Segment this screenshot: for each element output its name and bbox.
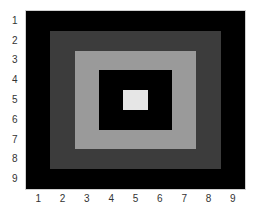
heatmap-cell: 0.25 xyxy=(50,31,74,51)
y-tick-label: 8 xyxy=(12,154,18,164)
heatmap-cell: 0.25 xyxy=(50,110,74,130)
heatmap-cell: 0 xyxy=(172,169,196,189)
y-tick-label: 5 xyxy=(12,95,18,105)
heatmap-cell: 0 xyxy=(99,70,123,90)
heatmap-cell: 0.6 xyxy=(75,51,99,71)
y-tick-label: 3 xyxy=(12,55,18,65)
x-tick-label: 4 xyxy=(108,194,114,204)
heatmap-cell: 0.6 xyxy=(172,70,196,90)
heatmap-cell: 0.25 xyxy=(123,149,147,169)
heatmap-cell: 0.6 xyxy=(172,130,196,150)
heatmap-cell: 0.6 xyxy=(75,130,99,150)
heatmap-cell: 0 xyxy=(26,11,50,31)
y-tick-label: 2 xyxy=(12,36,18,46)
heatmap-cell: 0.25 xyxy=(99,149,123,169)
heatmap-cell: 0 xyxy=(99,110,123,130)
heatmap-cell: 0 xyxy=(26,70,50,90)
heatmap-cell: 0.6 xyxy=(148,130,172,150)
heatmap-cell: 0.25 xyxy=(196,31,220,51)
heatmap-cell: 0 xyxy=(26,169,50,189)
heatmap-cell: 0 xyxy=(75,11,99,31)
heatmap-cell: 0.25 xyxy=(196,51,220,71)
y-tick-label: 6 xyxy=(12,115,18,125)
heatmap-cell: 0.6 xyxy=(123,130,147,150)
heatmap-plot-area: 00000000000.250.250.250.250.250.250.2500… xyxy=(26,11,245,189)
heatmap-cell: 0.25 xyxy=(50,90,74,110)
heatmap-cell: 0.25 xyxy=(50,70,74,90)
x-tick-label: 3 xyxy=(84,194,90,204)
heatmap-cell: 0.6 xyxy=(172,90,196,110)
heatmap-cell: 0 xyxy=(26,149,50,169)
heatmap-cell: 0 xyxy=(50,11,74,31)
heatmap-cell: 0 xyxy=(26,110,50,130)
heatmap-cell: 0.6 xyxy=(172,51,196,71)
heatmap-cell: 0 xyxy=(221,11,245,31)
heatmap-cell: 0 xyxy=(196,11,220,31)
x-tick-label: 5 xyxy=(133,194,139,204)
y-tick-label: 7 xyxy=(12,135,18,145)
heatmap-cell: 0 xyxy=(221,31,245,51)
heatmap-cell: 0.6 xyxy=(99,130,123,150)
heatmap-cell: 0 xyxy=(221,70,245,90)
heatmap-cell: 0 xyxy=(221,149,245,169)
heatmap-cell: 0.6 xyxy=(75,70,99,90)
heatmap-cell: 0 xyxy=(221,51,245,71)
heatmap-cell: 0 xyxy=(123,11,147,31)
heatmap-cell: 0 xyxy=(26,130,50,150)
heatmap-cell: 0 xyxy=(148,110,172,130)
heatmap-figure: 00000000000.250.250.250.250.250.250.2500… xyxy=(0,0,253,212)
heatmap-cell: 0 xyxy=(221,110,245,130)
heatmap-cell: 0 xyxy=(172,11,196,31)
heatmap-cell: 0 xyxy=(148,70,172,90)
x-tick-label: 1 xyxy=(35,194,41,204)
heatmap-cell: 0 xyxy=(99,90,123,110)
heatmap-cell: 0.6 xyxy=(172,110,196,130)
heatmap-cell: 0.25 xyxy=(148,31,172,51)
x-tick-label: 8 xyxy=(206,194,212,204)
heatmap-cell: 0 xyxy=(26,51,50,71)
heatmap-cell: 0.25 xyxy=(148,149,172,169)
heatmap-cell: 0.25 xyxy=(99,31,123,51)
heatmap-cell: 0 xyxy=(221,169,245,189)
heatmap-cell: 0.25 xyxy=(50,149,74,169)
x-tick-label: 2 xyxy=(60,194,66,204)
heatmap-cell: 0.25 xyxy=(75,149,99,169)
heatmap-cell: 0.25 xyxy=(123,31,147,51)
x-tick-label: 6 xyxy=(157,194,163,204)
heatmap-cell: 0 xyxy=(123,110,147,130)
y-tick-label: 9 xyxy=(12,174,18,184)
y-tick-label: 4 xyxy=(12,75,18,85)
heatmap-cell: 0 xyxy=(26,31,50,51)
heatmap-cell: 0.6 xyxy=(99,51,123,71)
y-tick-label: 1 xyxy=(12,16,18,26)
heatmap-cell: 0 xyxy=(123,169,147,189)
heatmap-cell: 0.25 xyxy=(172,149,196,169)
heatmap-cell: 0 xyxy=(50,169,74,189)
heatmap-cell: 0.6 xyxy=(123,51,147,71)
heatmap-cell: 0.25 xyxy=(196,90,220,110)
heatmap-cell: 0.25 xyxy=(50,51,74,71)
heatmap-cell: 0 xyxy=(148,11,172,31)
heatmap-cell: 0.25 xyxy=(196,149,220,169)
heatmap-cell: 0.6 xyxy=(75,90,99,110)
heatmap-cell: 0 xyxy=(75,169,99,189)
heatmap-cell: 0 xyxy=(221,130,245,150)
heatmap-cell: 0 xyxy=(99,11,123,31)
heatmap-cell: 0.6 xyxy=(75,110,99,130)
heatmap-cell: 0.9 xyxy=(123,90,147,110)
heatmap-cell: 0 xyxy=(148,169,172,189)
heatmap-cell: 0 xyxy=(196,169,220,189)
heatmap-cell: 0.25 xyxy=(75,31,99,51)
heatmap-cell: 0.25 xyxy=(196,130,220,150)
heatmap-cell: 0.25 xyxy=(50,130,74,150)
heatmap-cell: 0.25 xyxy=(196,110,220,130)
heatmap-cell: 0 xyxy=(123,70,147,90)
heatmap-cell: 0.25 xyxy=(196,70,220,90)
heatmap-cell: 0 xyxy=(26,90,50,110)
heatmap-cell: 0 xyxy=(148,90,172,110)
heatmap-cell: 0.25 xyxy=(172,31,196,51)
heatmap-cell: 0 xyxy=(221,90,245,110)
heatmap-cell: 0.6 xyxy=(148,51,172,71)
x-tick-label: 9 xyxy=(230,194,236,204)
heatmap-cell: 0 xyxy=(99,169,123,189)
